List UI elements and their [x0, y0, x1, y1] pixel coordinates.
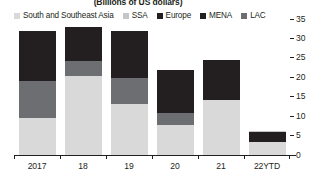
x-axis-labels: 20171819202122YTD: [14, 160, 290, 176]
bar-segment: [157, 70, 194, 113]
x-axis-tick-mark: [106, 155, 107, 159]
tick-mark-icon: [290, 155, 294, 156]
x-axis-tick-mark: [60, 155, 61, 159]
x-axis-tick-mark: [198, 155, 199, 159]
bar-segment: [111, 31, 148, 78]
bar-segment: [19, 118, 56, 155]
legend-swatch-icon: [200, 13, 206, 19]
tick-mark-icon: [290, 135, 294, 136]
bar-slot: [152, 19, 198, 155]
x-axis-label: 21: [198, 160, 244, 176]
bar-segment: [65, 76, 102, 155]
stacked-bar[interactable]: [111, 31, 148, 155]
y-axis-tick-label: 10: [296, 112, 305, 121]
stacked-bar[interactable]: [249, 131, 286, 155]
stacked-bar[interactable]: [19, 31, 56, 155]
chart-container: (Billions of US dollars) South and South…: [0, 0, 323, 179]
tick-mark-icon: [290, 57, 294, 58]
bar-segment: [65, 61, 102, 77]
bar-segment: [111, 78, 148, 104]
bar-segment: [157, 113, 194, 125]
y-axis-tick: 25: [290, 53, 305, 63]
y-axis-tick: 35: [290, 14, 305, 24]
bar-segment: [111, 104, 148, 155]
stacked-bar[interactable]: [203, 60, 240, 155]
x-axis-tick-mark: [244, 155, 245, 159]
legend-swatch-icon: [157, 13, 163, 19]
legend-swatch-icon: [14, 13, 20, 19]
y-axis-tick: 0: [290, 150, 301, 160]
bar-segment: [249, 142, 286, 155]
y-axis-tick-label: 20: [296, 73, 305, 82]
bar-slot: [106, 19, 152, 155]
bar-segment: [19, 31, 56, 81]
y-axis: 35302520151050: [290, 0, 323, 179]
legend-swatch-icon: [123, 13, 129, 19]
x-axis-label: 18: [60, 160, 106, 176]
bar-slot: [14, 19, 60, 155]
y-axis-tick-label: 35: [296, 15, 305, 24]
bar-slot: [198, 19, 244, 155]
bar-segment: [249, 132, 286, 142]
y-axis-tick: 10: [290, 111, 305, 121]
x-axis-tick-mark: [14, 155, 15, 159]
bar-slot: [60, 19, 106, 155]
chart-subtitle: (Billions of US dollars): [0, 0, 276, 7]
x-axis-label: 20: [152, 160, 198, 176]
tick-mark-icon: [290, 77, 294, 78]
y-axis-tick-label: 15: [296, 92, 305, 101]
bar-segment: [203, 100, 240, 155]
bar-segment: [203, 60, 240, 100]
y-axis-tick-label: 30: [296, 34, 305, 43]
y-axis-tick-label: 25: [296, 53, 305, 62]
y-axis-tick: 15: [290, 92, 305, 102]
tick-mark-icon: [290, 38, 294, 39]
plot-area: [14, 19, 290, 155]
x-axis-label: 2017: [14, 160, 60, 176]
tick-mark-icon: [290, 19, 294, 20]
stacked-bar[interactable]: [65, 27, 102, 155]
x-axis-label: 19: [106, 160, 152, 176]
legend-swatch-icon: [241, 13, 247, 19]
y-axis-tick-label: 0: [296, 151, 301, 160]
bar-group: [14, 19, 290, 155]
bar-segment: [157, 125, 194, 155]
bar-segment: [65, 27, 102, 61]
x-axis-tick-mark: [152, 155, 153, 159]
bar-slot: [244, 19, 290, 155]
y-axis-tick: 30: [290, 33, 305, 43]
x-axis-label: 22YTD: [244, 160, 290, 176]
y-axis-tick: 5: [290, 131, 301, 141]
tick-mark-icon: [290, 116, 294, 117]
y-axis-tick-label: 5: [296, 131, 301, 140]
bar-segment: [19, 81, 56, 118]
tick-mark-icon: [290, 96, 294, 97]
y-axis-tick: 20: [290, 72, 305, 82]
stacked-bar[interactable]: [157, 70, 194, 155]
